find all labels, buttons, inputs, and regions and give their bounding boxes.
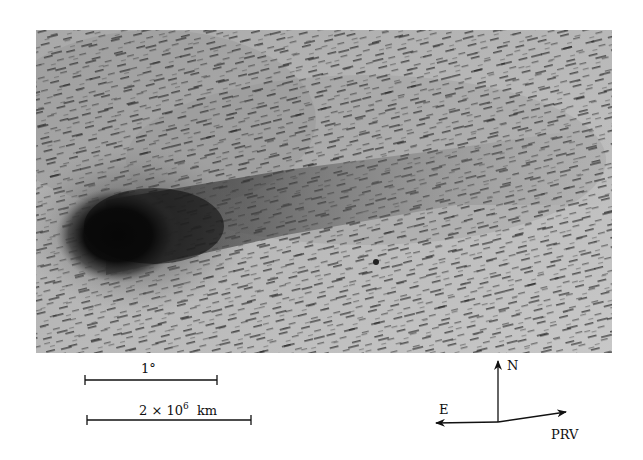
- compass-north-label: N: [507, 359, 518, 372]
- comet-photograph: [36, 30, 612, 353]
- east-arrow-icon: [436, 422, 498, 423]
- velocity-arrow-icon: [498, 412, 566, 422]
- scale-label-distance: 2 × 106 km: [139, 402, 217, 417]
- compass-east-label: E: [439, 403, 449, 416]
- scale-label-distance-base: 2 × 10: [139, 403, 183, 418]
- comet-image: [36, 30, 612, 353]
- scale-bar-degree: [85, 375, 217, 385]
- scale-label-distance-unit: km: [197, 403, 217, 418]
- compass-rose: [436, 361, 566, 423]
- scale-label-distance-exponent: 6: [183, 401, 189, 411]
- compass-velocity-label: PRV: [551, 428, 578, 441]
- scale-label-degree: 1°: [141, 362, 156, 375]
